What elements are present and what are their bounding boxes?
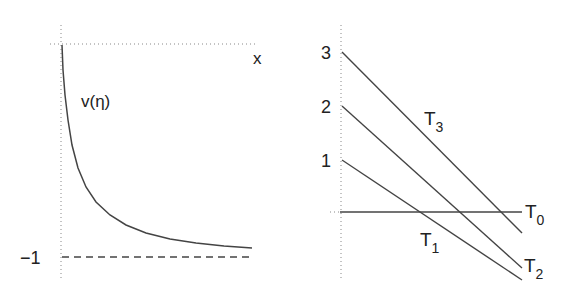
tick-label-2: 2 <box>321 97 331 117</box>
left-panel: x v(η) −1 <box>20 25 262 278</box>
label-t3: T3 <box>424 108 444 135</box>
v-eta-curve <box>62 45 252 248</box>
right-panel: 3 2 1 T3 T0 T1 T2 <box>321 25 545 282</box>
tick-label-3: 3 <box>321 43 331 63</box>
line-t1 <box>342 160 522 280</box>
asymptote-label: −1 <box>20 248 41 268</box>
label-t2: T2 <box>524 255 544 282</box>
curve-label: v(η) <box>81 92 110 111</box>
label-t0: T0 <box>525 201 545 228</box>
line-t3 <box>342 52 522 233</box>
x-axis-label: x <box>253 49 262 68</box>
label-t1: T1 <box>420 229 440 256</box>
tick-label-1: 1 <box>321 151 331 171</box>
diagram-canvas: x v(η) −1 3 2 1 T3 T0 T1 T2 <box>0 0 563 302</box>
